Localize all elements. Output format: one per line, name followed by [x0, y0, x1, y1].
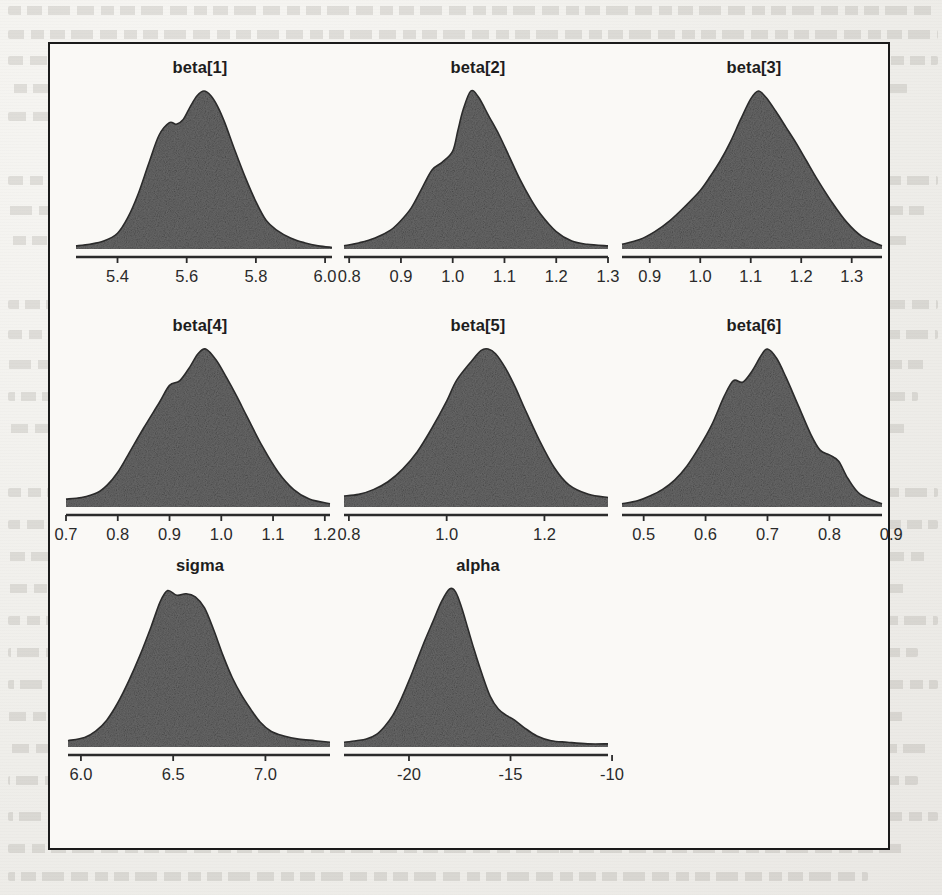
density-panel-alpha: alpha-20-15-10 [340, 556, 616, 794]
x-tick-label: 0.5 [632, 525, 655, 544]
x-tick-label: 6.0 [69, 765, 92, 784]
panel-title: beta[6] [618, 316, 890, 335]
x-tick-label: 0.8 [338, 267, 361, 286]
x-tick-label: 0.7 [55, 525, 78, 544]
panel-title: beta[4] [62, 316, 338, 335]
density-panel-sigma: sigma6.06.57.0 [62, 556, 338, 794]
x-tick-label: -20 [397, 765, 421, 784]
x-tick-label: 6.5 [162, 765, 185, 784]
x-tick-label: 5.8 [244, 267, 267, 286]
x-tick-label: 1.2 [313, 525, 336, 544]
panel-title: sigma [62, 556, 338, 575]
x-tick-labels: 0.70.80.91.01.11.2 [62, 525, 338, 547]
x-tick-label: 1.0 [441, 267, 464, 286]
density-curve [340, 582, 616, 750]
density-curve [62, 582, 338, 750]
x-axis [62, 752, 338, 764]
x-tick-labels: 0.91.01.11.21.3 [618, 267, 890, 289]
x-tick-label: 0.8 [337, 525, 360, 544]
figure-frame: beta[1]5.45.65.86.0beta[2]0.80.91.01.11.… [48, 42, 890, 850]
x-tick-label: 1.3 [597, 267, 620, 286]
x-axis [62, 512, 338, 524]
x-tick-labels: -20-15-10 [340, 765, 616, 787]
x-axis [618, 512, 890, 524]
x-tick-label: -15 [499, 765, 523, 784]
x-tick-label: 1.0 [210, 525, 233, 544]
density-panel-beta5: beta[5]0.81.01.2 [340, 316, 616, 554]
x-tick-label: 1.2 [545, 267, 568, 286]
panel-title: alpha [340, 556, 616, 575]
x-tick-label: 1.1 [493, 267, 516, 286]
density-panel-beta3: beta[3]0.91.01.11.21.3 [618, 58, 890, 296]
x-tick-labels: 0.80.91.01.11.21.3 [340, 267, 616, 289]
x-tick-label: 0.8 [818, 525, 841, 544]
x-tick-label: 1.3 [840, 267, 863, 286]
x-tick-label: 0.9 [389, 267, 412, 286]
x-tick-label: 1.0 [435, 525, 458, 544]
x-axis [340, 752, 616, 764]
x-tick-label: 0.8 [106, 525, 129, 544]
x-tick-label: 5.6 [175, 267, 198, 286]
x-tick-label: 0.9 [880, 525, 903, 544]
density-curve [340, 84, 616, 252]
x-tick-label: 1.2 [790, 267, 813, 286]
x-axis [340, 254, 616, 266]
x-tick-labels: 0.81.01.2 [340, 525, 616, 547]
density-panel-beta2: beta[2]0.80.91.01.11.21.3 [340, 58, 616, 296]
x-tick-labels: 5.45.65.86.0 [62, 267, 338, 289]
x-tick-label: -10 [600, 765, 624, 784]
density-panel-grid: beta[1]5.45.65.86.0beta[2]0.80.91.01.11.… [50, 44, 888, 848]
density-curve [618, 84, 890, 252]
x-axis [340, 512, 616, 524]
x-tick-label: 1.0 [689, 267, 712, 286]
x-tick-label: 0.9 [638, 267, 661, 286]
density-curve [62, 342, 338, 510]
panel-title: beta[1] [62, 58, 338, 77]
x-tick-label: 1.1 [262, 525, 285, 544]
x-tick-label: 1.2 [533, 525, 556, 544]
x-axis [618, 254, 890, 266]
x-tick-label: 1.1 [739, 267, 762, 286]
x-tick-labels: 6.06.57.0 [62, 765, 338, 787]
panel-title: beta[3] [618, 58, 890, 77]
density-panel-beta1: beta[1]5.45.65.86.0 [62, 58, 338, 296]
x-tick-label: 0.6 [694, 525, 717, 544]
x-tick-label: 5.4 [106, 267, 129, 286]
x-axis [62, 254, 338, 266]
x-tick-label: 6.0 [314, 267, 337, 286]
density-curve [618, 342, 890, 510]
x-tick-labels: 0.50.60.70.80.9 [618, 525, 890, 547]
density-panel-beta6: beta[6]0.50.60.70.80.9 [618, 316, 890, 554]
x-tick-label: 0.7 [756, 525, 779, 544]
panel-title: beta[5] [340, 316, 616, 335]
panel-title: beta[2] [340, 58, 616, 77]
density-curve [62, 84, 338, 252]
density-curve [340, 342, 616, 510]
density-panel-beta4: beta[4]0.70.80.91.01.11.2 [62, 316, 338, 554]
x-tick-label: 0.9 [158, 525, 181, 544]
x-tick-label: 7.0 [254, 765, 277, 784]
